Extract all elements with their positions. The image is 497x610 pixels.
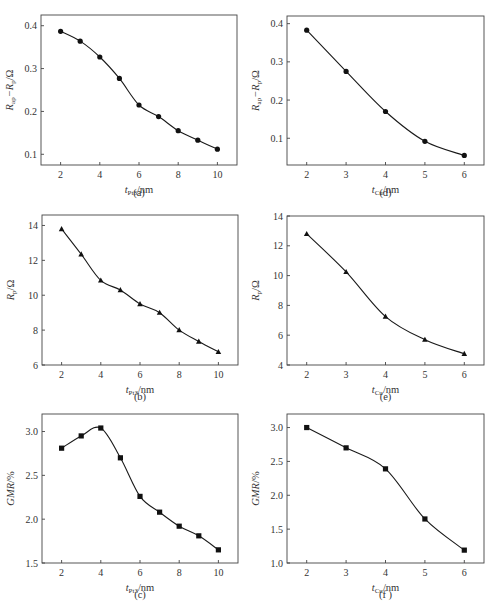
square-marker-icon [118, 455, 123, 460]
y-tick-label: 0.1 [271, 133, 284, 144]
y-tick-label: 8 [278, 300, 283, 311]
circle-marker-icon [136, 102, 141, 107]
triangle-marker-icon [216, 349, 222, 354]
panel-a: 2468100.10.20.30.4tPt3/nmRap−Rp/Ω(a) [4, 15, 237, 199]
circle-marker-icon [97, 54, 102, 59]
panel-f: 234561.01.52.02.53.0tCu/nmGMR/%(f ) [250, 414, 484, 601]
x-tick-label: 2 [58, 169, 63, 180]
panel-c: 2468101.52.02.53.0tPt3/nmGMR/%(c) [5, 414, 238, 601]
plot-frame [287, 414, 484, 563]
panel-b: 24681068101214tPt3/nmRp/Ω(b) [5, 215, 238, 403]
y-tick-label: 14 [28, 220, 38, 231]
y-axis-label: Rap−Rp/Ω [4, 69, 17, 111]
x-tick-label: 10 [213, 567, 223, 578]
circle-marker-icon [78, 39, 83, 44]
y-tick-label: 12 [28, 255, 38, 266]
square-marker-icon [216, 547, 221, 552]
circle-marker-icon [422, 139, 427, 144]
x-tick-label: 6 [138, 369, 143, 380]
triangle-marker-icon [304, 231, 310, 236]
x-tick-label: 8 [176, 169, 181, 180]
panel-caption: (d) [379, 187, 392, 199]
circle-marker-icon [58, 29, 63, 34]
panel-d: 234560.10.20.30.4tCu/nmRap−Rp/Ω(d) [250, 16, 484, 199]
y-tick-label: 2.5 [26, 470, 39, 481]
x-tick-label: 4 [98, 369, 103, 380]
x-tick-label: 4 [383, 567, 388, 578]
circle-marker-icon [304, 28, 309, 33]
data-curve [307, 234, 465, 354]
x-tick-label: 2 [59, 567, 64, 578]
plot-frame [287, 216, 484, 365]
square-marker-icon [462, 548, 467, 553]
x-tick-label: 5 [422, 369, 427, 380]
x-tick-label: 5 [422, 169, 427, 180]
y-tick-label: 0.3 [271, 56, 284, 67]
x-tick-label: 6 [462, 567, 467, 578]
y-axis-label: Rap−Rp/Ω [250, 70, 263, 112]
panel-caption: (b) [134, 391, 147, 403]
data-curve [62, 427, 219, 550]
x-tick-label: 10 [213, 369, 223, 380]
y-tick-label: 2.0 [271, 490, 284, 501]
triangle-marker-icon [118, 287, 124, 292]
panel-caption: (c) [134, 589, 146, 601]
plot-frame [41, 15, 237, 165]
x-tick-label: 8 [177, 369, 182, 380]
x-tick-label: 6 [138, 567, 143, 578]
square-marker-icon [177, 524, 182, 529]
panel-e: 23456468101214tCu/nmRp/Ω(e) [250, 211, 484, 404]
plot-frame [42, 414, 238, 563]
circle-marker-icon [176, 128, 181, 133]
y-axis-label: Rp/Ω [5, 279, 18, 301]
triangle-marker-icon [137, 301, 143, 306]
y-tick-label: 0.4 [25, 20, 38, 31]
y-axis-label: Rp/Ω [250, 280, 263, 302]
square-marker-icon [196, 533, 201, 538]
x-tick-label: 6 [462, 169, 467, 180]
y-axis-label: GMR/% [250, 471, 261, 506]
x-tick-label: 4 [98, 567, 103, 578]
triangle-marker-icon [59, 226, 65, 231]
circle-marker-icon [344, 69, 349, 74]
x-tick-label: 2 [304, 567, 309, 578]
y-tick-label: 3.0 [26, 426, 39, 437]
y-tick-label: 14 [273, 211, 283, 222]
data-curve [61, 31, 218, 149]
circle-marker-icon [195, 138, 200, 143]
x-tick-label: 4 [383, 369, 388, 380]
x-tick-label: 4 [97, 169, 102, 180]
square-marker-icon [344, 445, 349, 450]
x-tick-label: 5 [422, 567, 427, 578]
x-tick-label: 4 [383, 169, 388, 180]
x-tick-label: 8 [177, 567, 182, 578]
y-tick-label: 0.2 [25, 106, 38, 117]
square-marker-icon [98, 425, 103, 430]
square-marker-icon [304, 425, 309, 430]
x-tick-label: 3 [344, 169, 349, 180]
y-tick-label: 0.3 [25, 63, 38, 74]
triangle-marker-icon [157, 310, 163, 315]
figure-canvas: 2468100.10.20.30.4tPt3/nmRap−Rp/Ω(a) 246… [0, 0, 497, 610]
square-marker-icon [422, 516, 427, 521]
y-tick-label: 1.5 [271, 524, 284, 535]
x-tick-label: 6 [462, 369, 467, 380]
data-curve [62, 229, 219, 352]
x-tick-label: 2 [304, 169, 309, 180]
square-marker-icon [383, 466, 388, 471]
circle-marker-icon [215, 147, 220, 152]
x-tick-label: 2 [59, 369, 64, 380]
plot-frame [287, 16, 484, 165]
x-tick-label: 10 [212, 169, 222, 180]
y-tick-label: 4 [278, 360, 283, 371]
x-tick-label: 3 [344, 369, 349, 380]
y-tick-label: 8 [33, 325, 38, 336]
y-tick-label: 0.2 [271, 95, 284, 106]
data-curve [307, 30, 465, 155]
y-tick-label: 3.0 [271, 422, 284, 433]
square-marker-icon [137, 494, 142, 499]
square-marker-icon [157, 510, 162, 515]
y-tick-label: 10 [273, 270, 283, 281]
data-curve [307, 428, 465, 551]
circle-marker-icon [383, 109, 388, 114]
